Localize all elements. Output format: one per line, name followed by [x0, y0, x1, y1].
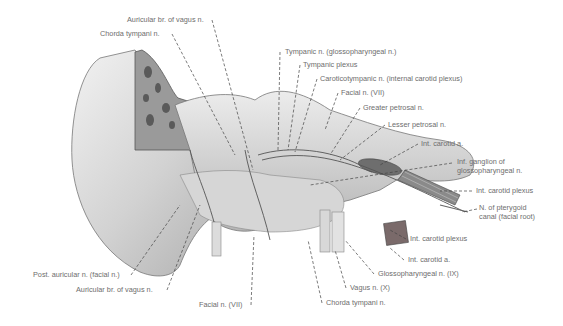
label-chorda-tympani-top: Chorda tympani n. — [100, 30, 160, 39]
label-glossopharyngeal-n: Glossopharyngeal n. (IX) — [378, 270, 459, 279]
label-int-carotid-a-bottom: Int. carotid a. — [408, 256, 450, 265]
label-vagus-n: Vagus n. (X) — [350, 284, 390, 293]
vagus-stem — [332, 212, 344, 252]
label-int-carotid-plexus-right: Int. carotid plexus — [476, 187, 533, 196]
label-auricular-br-vagus-bottom: Auricular br. of vagus n. — [76, 286, 153, 295]
label-chorda-tympani-bottom: Chorda tympani n. — [326, 299, 386, 308]
label-greater-petrosal-n: Greater petrosal n. — [363, 104, 424, 113]
label-lesser-petrosal-n: Lesser petrosal n. — [388, 121, 446, 130]
label-facial-n-top: Facial n. (VII) — [341, 89, 384, 98]
label-facial-n-bottom: Facial n. (VII) — [199, 301, 242, 310]
label-int-carotid-plexus-bottom: Int. carotid plexus — [410, 235, 467, 244]
glossopharyngeal-stem — [320, 210, 330, 252]
label-tympanic-plexus: Tympanic plexus — [303, 61, 357, 70]
label-tympanic-n: Tympanic n. (glossopharyngeal n.) — [285, 48, 397, 57]
label-n-pterygoid-canal-line2: canal (facial root) — [479, 213, 535, 222]
label-auricular-br-vagus-top: Auricular br. of vagus n. — [127, 16, 204, 25]
label-caroticotympanic-n: Caroticotympanic n. (internal carotid pl… — [320, 75, 462, 84]
label-inf-ganglion-line2: glossopharyngeal n. — [457, 167, 522, 176]
facial-nerve-stem — [212, 222, 221, 256]
label-int-carotid-a-top: Int. carotid a. — [421, 140, 463, 149]
label-post-auricular-n: Post. auricular n. (facial n.) — [33, 271, 120, 280]
temporal-bone-figure: Auricular br. of vagus n. Chorda tympani… — [0, 0, 563, 326]
